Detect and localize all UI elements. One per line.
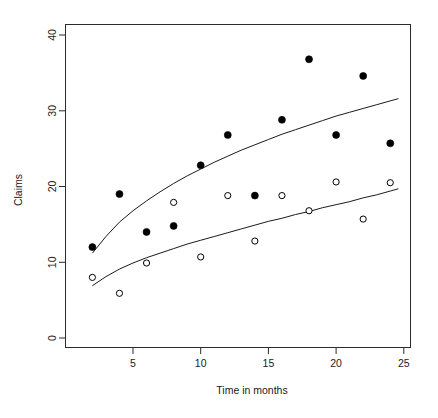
- x-tick-label-25: 25: [398, 357, 410, 369]
- data-point-filled: [89, 244, 96, 251]
- upper-fitted-curve: [92, 99, 398, 254]
- data-point-open: [387, 180, 393, 186]
- data-point-filled: [143, 228, 150, 235]
- x-tick-label-15: 15: [263, 357, 275, 369]
- data-point-filled: [197, 162, 204, 169]
- data-point-open: [252, 238, 258, 244]
- data-point-filled: [333, 131, 340, 138]
- y-axis-tick-labels: 0 10 20 30 40: [46, 29, 58, 341]
- data-point-open: [306, 208, 312, 214]
- lower-fitted-curve: [92, 189, 398, 286]
- data-point-filled: [387, 140, 394, 147]
- x-axis-title: Time in months: [216, 384, 287, 396]
- x-tick-label-5: 5: [130, 357, 136, 369]
- data-point-open: [116, 290, 122, 296]
- fitted-curves-group: [92, 99, 398, 286]
- data-point-filled: [306, 56, 313, 63]
- data-point-filled: [170, 222, 177, 229]
- data-point-open: [225, 192, 231, 198]
- data-point-filled: [360, 72, 367, 79]
- data-point-open: [198, 254, 204, 260]
- y-tick-label-40: 40: [46, 29, 58, 41]
- data-point-open: [333, 179, 339, 185]
- x-axis-ticks: [133, 348, 404, 355]
- data-point-filled: [224, 131, 231, 138]
- x-tick-label-20: 20: [330, 357, 342, 369]
- data-point-open: [171, 199, 177, 205]
- y-tick-label-30: 30: [46, 105, 58, 117]
- scatter-plot-svg: 0 10 20 30 40 5 10 15 20 25 Time in mont…: [0, 0, 438, 418]
- filled-circle-series: [89, 56, 394, 251]
- y-tick-label-20: 20: [46, 181, 58, 193]
- y-axis-ticks: [59, 35, 66, 338]
- open-circle-series: [89, 179, 393, 297]
- data-point-open: [279, 192, 285, 198]
- data-point-filled: [116, 191, 123, 198]
- data-point-filled: [251, 192, 258, 199]
- y-axis-title: Claims: [12, 174, 24, 206]
- data-point-open: [143, 260, 149, 266]
- y-tick-label-10: 10: [46, 256, 58, 268]
- data-point-filled: [278, 116, 285, 123]
- data-point-open: [360, 216, 366, 222]
- data-point-open: [89, 274, 95, 280]
- x-tick-label-10: 10: [195, 357, 207, 369]
- chart-figure: 0 10 20 30 40 5 10 15 20 25 Time in mont…: [0, 0, 438, 418]
- x-axis-tick-labels: 5 10 15 20 25: [130, 357, 410, 369]
- y-tick-label-0: 0: [46, 335, 58, 341]
- plot-frame: [66, 25, 411, 348]
